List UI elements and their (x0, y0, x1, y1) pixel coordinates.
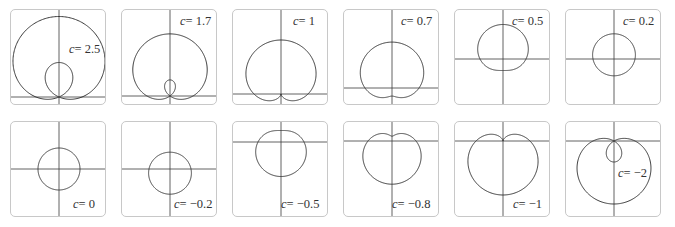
polar-plot (11, 10, 106, 105)
limacon-panel: c= 0 (10, 121, 106, 217)
limacon-panel: c= −2 (565, 121, 661, 217)
c-value-label: c= −0.5 (281, 197, 319, 212)
limacon-panel: c= −0.5 (232, 121, 328, 217)
limacon-panel: c= 0.2 (565, 9, 661, 105)
limacon-panel: c= 0.5 (454, 9, 550, 105)
limacon-panel: c= 0.7 (343, 9, 439, 105)
c-value: = 0.2 (629, 14, 655, 28)
c-value-label: c= 2.5 (69, 42, 100, 57)
c-value: = 1 (299, 14, 315, 28)
c-value-label: c= −0.8 (392, 197, 430, 212)
limacon-panel: c= −0.2 (121, 121, 217, 217)
c-value: = −1 (519, 197, 542, 211)
c-value-label: c= 0.7 (401, 14, 432, 29)
c-value: = 1.7 (186, 14, 212, 28)
c-value: = −0.5 (287, 197, 320, 211)
c-value: = 0.7 (407, 14, 433, 28)
limacon-panel: c= 1.7 (121, 9, 217, 105)
c-value-label: c= 1.7 (180, 14, 211, 29)
c-value: = −0.8 (398, 197, 431, 211)
c-value: = 0 (79, 197, 95, 211)
c-value: = −0.2 (180, 197, 213, 211)
c-value-label: c= 0.5 (512, 14, 543, 29)
limacon-panel: c= 1 (232, 9, 328, 105)
limacon-panel: c= −1 (454, 121, 550, 217)
c-value-label: c= −0.2 (174, 197, 212, 212)
limacon-panel: c= −0.8 (343, 121, 439, 217)
limacon-panel: c= 2.5 (10, 9, 106, 105)
c-value-label: c= 0.2 (623, 14, 654, 29)
c-value: = 0.5 (518, 14, 544, 28)
c-value-label: c= −2 (618, 166, 647, 181)
c-value: = −2 (624, 166, 647, 180)
c-value-label: c= 0 (73, 197, 95, 212)
c-value-label: c= 1 (293, 14, 315, 29)
c-value: = 2.5 (75, 42, 101, 56)
c-value-label: c= −1 (513, 197, 542, 212)
